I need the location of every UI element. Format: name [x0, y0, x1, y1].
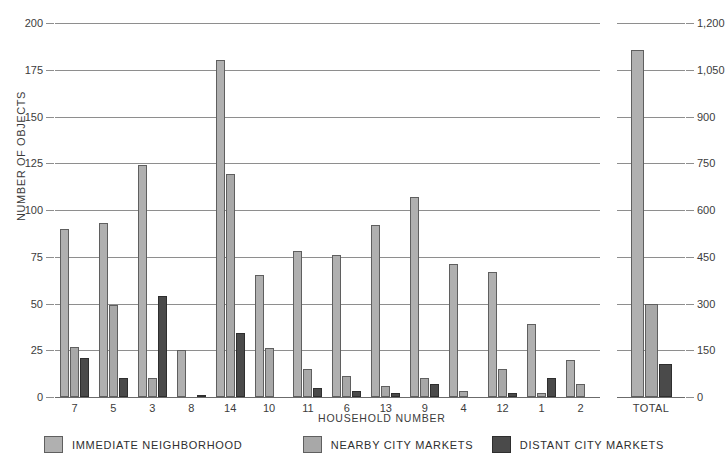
legend-item-immediate-neighborhood: IMMEDIATE NEIGHBORHOOD	[44, 436, 303, 453]
y2-axis-tick-label: 600	[697, 204, 715, 216]
legend-swatch-icon	[303, 436, 322, 453]
bar	[449, 264, 458, 397]
bar-group: 1	[522, 23, 561, 397]
plot-area: 7538141011613941212	[55, 23, 600, 397]
y-axis-tickmark	[46, 210, 54, 211]
bar	[197, 395, 206, 397]
bar-group: 14	[211, 23, 250, 397]
y-axis-tickmark	[46, 117, 54, 118]
y-axis-tick-label: 25	[31, 344, 43, 356]
bar-group: 6	[327, 23, 366, 397]
bar	[430, 384, 439, 397]
bar	[537, 393, 546, 397]
total-bar-group: TOTAL	[617, 23, 685, 397]
bar	[410, 197, 419, 397]
legend-label: DISTANT CITY MARKETS	[520, 439, 664, 451]
bar	[99, 223, 108, 397]
bar	[576, 384, 585, 397]
bar-group-total: TOTAL	[617, 23, 685, 397]
total-plot-area: TOTAL	[617, 23, 685, 397]
bar	[381, 386, 390, 397]
bar-group: 2	[561, 23, 600, 397]
bar	[508, 393, 517, 397]
bar-group: 13	[366, 23, 405, 397]
bar	[70, 347, 79, 397]
legend: IMMEDIATE NEIGHBORHOOD NEARBY CITY MARKE…	[44, 436, 664, 453]
gridline	[55, 397, 600, 398]
bar	[138, 165, 147, 397]
bar	[216, 60, 225, 397]
y2-axis-tick-label: 750	[697, 157, 715, 169]
y2-axis-tickmark	[686, 397, 694, 398]
legend-swatch-icon	[44, 436, 63, 453]
bar-group: 12	[483, 23, 522, 397]
y-axis-tickmark	[46, 163, 54, 164]
y2-axis-tickmark	[686, 117, 694, 118]
x-axis-tick-label: 14	[211, 402, 250, 414]
x-axis-tick-label: 8	[172, 402, 211, 414]
bar	[303, 369, 312, 397]
bar-group: 7	[55, 23, 94, 397]
y2-axis-tick-label: 0	[697, 391, 703, 403]
x-axis-tick-label: 1	[522, 402, 561, 414]
x-axis-tick-label: 3	[133, 402, 172, 414]
bar-groups: 7538141011613941212	[55, 23, 600, 397]
y-axis-tick-label: 200	[25, 17, 43, 29]
bar	[459, 391, 468, 397]
bar	[566, 360, 575, 397]
bar	[488, 272, 497, 397]
x-axis-tick-label: 10	[250, 402, 289, 414]
x-axis-tick-label: 2	[561, 402, 600, 414]
y2-axis-tickmark	[686, 23, 694, 24]
y2-axis-tickmark	[686, 70, 694, 71]
x-axis-tick-label: 12	[483, 402, 522, 414]
y-axis-tick-label: 100	[25, 204, 43, 216]
y-axis-tickmark	[46, 350, 54, 351]
y2-axis-tickmark	[686, 350, 694, 351]
bar	[109, 305, 118, 397]
y2-axis-tickmark	[686, 163, 694, 164]
bar	[352, 391, 361, 397]
y-axis-tick-label: 50	[31, 298, 43, 310]
bar-group: 9	[405, 23, 444, 397]
bar-group: 10	[250, 23, 289, 397]
y2-axis-tick-label: 1,200	[697, 17, 725, 29]
bar	[391, 393, 400, 397]
legend-item-distant-city-markets: DISTANT CITY MARKETS	[492, 436, 664, 453]
y-axis-tickmark	[46, 257, 54, 258]
x-axis-tick-label: 5	[94, 402, 133, 414]
y2-axis-tick-label: 300	[697, 298, 715, 310]
bar	[332, 255, 341, 397]
bar-group: 11	[289, 23, 328, 397]
bar	[255, 275, 264, 397]
y-axis-tickmark	[46, 23, 54, 24]
bar	[342, 376, 351, 397]
x-axis-tick-label: 4	[444, 402, 483, 414]
y-axis-tick-label: 175	[25, 64, 43, 76]
legend-item-nearby-city-markets: NEARBY CITY MARKETS	[303, 436, 492, 453]
y-axis-tick-label: 125	[25, 157, 43, 169]
y2-axis-tick-label: 450	[697, 251, 715, 263]
x-axis-tick-label: 7	[55, 402, 94, 414]
bar-group: 4	[444, 23, 483, 397]
bar	[119, 378, 128, 397]
y-axis-tick-label: 150	[25, 111, 43, 123]
bar	[420, 378, 429, 397]
bar-group: 5	[94, 23, 133, 397]
bar	[80, 358, 89, 397]
bar	[371, 225, 380, 397]
y-axis-tickmark	[46, 304, 54, 305]
bar	[148, 378, 157, 397]
y2-axis-tickmark	[686, 257, 694, 258]
y-axis-tick-label: 75	[31, 251, 43, 263]
legend-swatch-icon	[492, 436, 511, 453]
bar	[498, 369, 507, 397]
y2-axis-tickmark	[686, 304, 694, 305]
y2-axis-tick-label: 150	[697, 344, 715, 356]
bar	[527, 324, 536, 397]
y-axis-tick-label: 0	[37, 391, 43, 403]
bar	[60, 229, 69, 397]
bar	[313, 388, 322, 397]
bar	[265, 348, 274, 397]
